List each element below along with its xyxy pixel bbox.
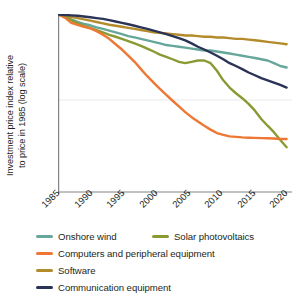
legend-swatch-software (36, 269, 53, 272)
legend-label-software: Software (58, 265, 95, 276)
legend-item-software[interactable]: Software (36, 262, 95, 278)
legend-label-communication-equipment: Communication equipment (58, 282, 171, 293)
y-axis-title: Investment price index relative to price… (5, 16, 28, 216)
plot-svg (58, 14, 292, 194)
plot-area (58, 14, 292, 192)
legend-label-onshore-wind: Onshore wind (58, 231, 117, 242)
x-axis-tick-labels: 1985 1990 1995 2000 2005 2010 2015 2020 (0, 196, 300, 230)
legend-swatch-computers (36, 252, 53, 255)
legend-swatch-onshore-wind (36, 235, 53, 238)
y-axis-title-line-1: Investment price index relative (5, 16, 17, 216)
y-axis-title-line-2: to price in 1985 (log scale) (16, 16, 28, 216)
legend-label-solar-photovoltaics: Solar photovoltaics (174, 231, 254, 242)
legend-item-communication-equipment[interactable]: Communication equipment (36, 279, 171, 295)
legend-item-computers[interactable]: Computers and peripheral equipment (36, 245, 215, 261)
legend-label-computers: Computers and peripheral equipment (58, 248, 215, 259)
legend-swatch-solar-photovoltaics (152, 235, 169, 238)
chart-figure: Investment price index relative to price… (0, 0, 300, 304)
series-lines (59, 15, 287, 148)
legend-item-solar-photovoltaics[interactable]: Solar photovoltaics (152, 228, 254, 244)
legend-item-onshore-wind[interactable]: Onshore wind (36, 228, 117, 244)
legend-swatch-communication-equipment (36, 286, 53, 289)
